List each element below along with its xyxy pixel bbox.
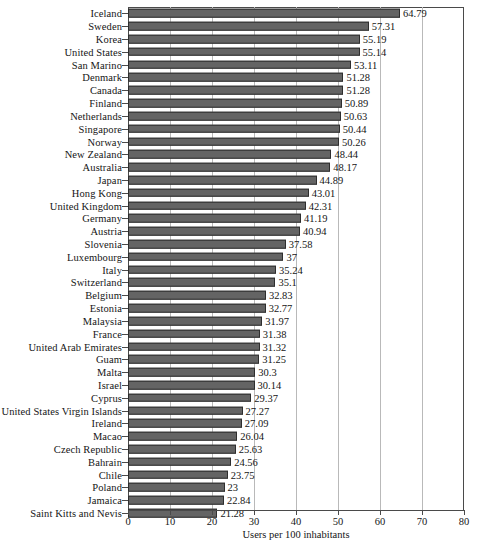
bar-value-label: 50.44 — [343, 123, 367, 134]
bar-row: Germany41.19 — [0, 212, 478, 225]
category-label: United States Virgin Islands — [2, 405, 122, 416]
bar-value-label: 27.27 — [246, 405, 270, 416]
bar-row: Chile23.75 — [0, 468, 478, 481]
category-label: Ireland — [92, 418, 122, 429]
x-axis-tick-label: 80 — [459, 516, 470, 528]
bar-value-label: 29.37 — [254, 392, 278, 403]
bar-row: Slovenia37.58 — [0, 238, 478, 251]
bar-row: Australia48.17 — [0, 161, 478, 174]
category-label: Chile — [99, 469, 122, 480]
x-axis-tick-label: 0 — [125, 516, 130, 528]
bar-value-label: 41.19 — [304, 213, 328, 224]
bar — [128, 406, 243, 415]
bar-value-label: 50.63 — [344, 110, 368, 121]
bar — [128, 227, 300, 236]
bar — [128, 278, 275, 287]
category-label: Netherlands — [70, 110, 122, 121]
x-axis-tick — [170, 510, 171, 515]
bar — [128, 124, 340, 133]
bar-value-label: 51.28 — [346, 72, 370, 83]
category-label: Korea — [96, 34, 122, 45]
bar-value-label: 40.94 — [303, 226, 327, 237]
bar-value-label: 24.56 — [234, 456, 258, 467]
bar-row: France31.38 — [0, 327, 478, 340]
bar-row: United States Virgin Islands27.27 — [0, 404, 478, 417]
category-label: Malaysia — [83, 315, 122, 326]
category-label: New Zealand — [65, 149, 122, 160]
category-label: Luxembourg — [67, 251, 122, 262]
bar — [128, 112, 341, 121]
bar-row: Malta30.3 — [0, 366, 478, 379]
category-label: United Arab Emirates — [28, 341, 122, 352]
bar-row: Iceland64.79 — [0, 7, 478, 20]
bar — [128, 329, 260, 338]
bar-value-label: 23.75 — [231, 469, 255, 480]
bar-value-label: 26.04 — [240, 431, 264, 442]
category-label: Australia — [83, 162, 122, 173]
bar-row: Luxembourg37 — [0, 250, 478, 263]
bar-row: Italy35.24 — [0, 263, 478, 276]
bar — [128, 163, 330, 172]
bar-value-label: 31.38 — [263, 328, 287, 339]
bar-row: Belgium32.83 — [0, 289, 478, 302]
bar-row: Macao26.04 — [0, 430, 478, 443]
category-label: United Kingdom — [50, 200, 122, 211]
bar-row: United States55.14 — [0, 45, 478, 58]
x-axis-tick — [338, 510, 339, 515]
x-axis-tick-label: 20 — [207, 516, 218, 528]
bar — [128, 304, 266, 313]
bar-value-label: 25.63 — [239, 444, 263, 455]
category-label: Italy — [102, 264, 122, 275]
x-axis-tick-label: 70 — [417, 516, 428, 528]
x-axis-tick — [296, 510, 297, 515]
bar-value-label: 23 — [228, 482, 239, 493]
bar-row: Austria40.94 — [0, 225, 478, 238]
bar-row: Denmark51.28 — [0, 71, 478, 84]
category-label: Hong Kong — [72, 187, 122, 198]
bar-row: Jamaica22.84 — [0, 494, 478, 507]
bar — [128, 419, 242, 428]
bar — [128, 188, 309, 197]
x-axis-title: Users per 100 inhabitants — [128, 529, 464, 541]
bar — [128, 9, 400, 18]
bar — [128, 342, 260, 351]
bar-value-label: 55.14 — [363, 46, 387, 57]
bar-value-label: 44.89 — [320, 174, 344, 185]
bar-value-label: 27.09 — [245, 418, 269, 429]
category-label: Malta — [97, 367, 122, 378]
category-label: Jamaica — [87, 495, 122, 506]
x-axis-tick-label: 40 — [291, 516, 302, 528]
bar — [128, 470, 228, 479]
category-label: Cyprus — [91, 392, 122, 403]
bar — [128, 86, 343, 95]
bar — [128, 73, 343, 82]
bar-value-label: 31.25 — [262, 354, 286, 365]
bar — [128, 60, 351, 69]
category-label: United States — [64, 46, 122, 57]
category-label: Macao — [93, 431, 122, 442]
bar — [128, 240, 286, 249]
bar-value-label: 42.31 — [309, 200, 333, 211]
bar-row: Switzerland35.1 — [0, 276, 478, 289]
bar-row: Israel30.14 — [0, 379, 478, 392]
bar-value-label: 22.84 — [227, 495, 251, 506]
bar-row: Japan44.89 — [0, 174, 478, 187]
bar — [128, 393, 251, 402]
bar-row: Hong Kong43.01 — [0, 186, 478, 199]
category-label: Switzerland — [71, 277, 122, 288]
bar — [128, 201, 306, 210]
bar-row: Sweden57.31 — [0, 20, 478, 33]
category-label: Germany — [82, 213, 122, 224]
category-label: Denmark — [82, 72, 122, 83]
bar — [128, 368, 255, 377]
bar — [128, 483, 225, 492]
bar — [128, 445, 236, 454]
category-label: Israel — [98, 379, 122, 390]
x-axis-tick — [212, 510, 213, 515]
bar-value-label: 48.44 — [334, 149, 358, 160]
bar-value-label: 37 — [286, 251, 297, 262]
bar-row: Bahrain24.56 — [0, 455, 478, 468]
bar-value-label: 30.3 — [258, 367, 276, 378]
bar-row: Malaysia31.97 — [0, 315, 478, 328]
category-label: Estonia — [90, 303, 122, 314]
